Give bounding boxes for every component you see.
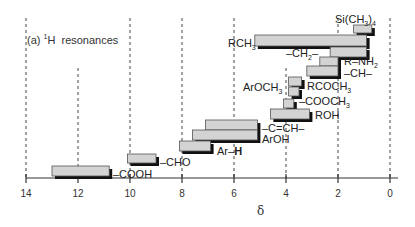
bar-label: ArOH xyxy=(262,134,290,145)
range-bar xyxy=(283,99,293,108)
bar-label: RCOCH3 xyxy=(307,81,351,96)
nmr-chemical-shift-chart: (a) 1H resonances δ 14121086420 Si(CH3)4… xyxy=(0,0,415,227)
range-bar xyxy=(320,57,338,66)
bar-label: –CH– xyxy=(344,68,372,79)
bar-label: Ar–H xyxy=(217,146,242,157)
range-bar xyxy=(289,87,299,96)
x-tick-label: 6 xyxy=(231,188,237,199)
x-axis-label: δ xyxy=(257,204,264,218)
range-bar xyxy=(52,166,109,176)
bar-label: RCH3 xyxy=(228,38,256,53)
range-bar xyxy=(289,77,302,86)
range-bar xyxy=(179,141,210,151)
x-tick-label: 8 xyxy=(179,188,185,199)
x-tick-label: 2 xyxy=(335,188,341,199)
bar-label: –CH2– xyxy=(286,48,318,63)
bar-label: Si(CH3)4 xyxy=(335,14,376,29)
range-bar xyxy=(255,35,367,46)
x-tick-label: 14 xyxy=(20,188,31,199)
bar-label: ROH xyxy=(315,110,339,121)
range-bar xyxy=(307,66,338,76)
chart-title: (a) 1H resonances xyxy=(27,33,118,46)
range-bar xyxy=(192,130,257,140)
bar-label: ArOCH3 xyxy=(243,82,282,97)
x-tick-label: 10 xyxy=(124,188,135,199)
x-tick-label: 4 xyxy=(283,188,289,199)
range-bar xyxy=(127,154,156,163)
range-bar xyxy=(205,120,257,130)
bar-label: –COOH xyxy=(113,169,152,180)
bar-label: –CHO xyxy=(160,157,191,168)
x-tick-label: 12 xyxy=(72,188,83,199)
x-tick-label: 0 xyxy=(387,188,393,199)
